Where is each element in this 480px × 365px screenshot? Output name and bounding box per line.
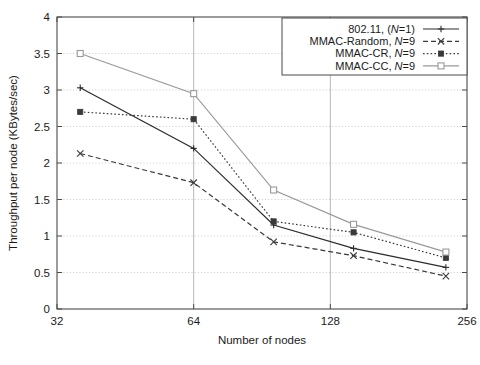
legend-entry-label: 802.11, (N=1) <box>348 23 415 35</box>
x-tick-label: 128 <box>321 315 340 327</box>
data-point-marker <box>351 230 356 235</box>
data-point-marker <box>191 117 196 122</box>
x-tick-label: 256 <box>457 315 476 327</box>
data-point-marker <box>271 187 277 193</box>
chart-legend: 802.11, (N=1)MMAC-Random, N=9MMAC-CR, N=… <box>282 18 467 75</box>
data-point-marker <box>271 219 276 224</box>
y-tick-label: 3.5 <box>34 48 50 60</box>
y-tick-label: 1 <box>44 230 50 242</box>
data-point-marker <box>443 255 448 260</box>
y-tick-label: 0.5 <box>34 267 50 279</box>
data-point-marker <box>77 51 83 57</box>
y-tick-label: 3 <box>44 84 50 96</box>
data-point-marker <box>78 109 83 114</box>
x-axis-title: Number of nodes <box>218 334 306 346</box>
x-tick-label: 32 <box>51 315 64 327</box>
y-axis-title: Throughput per node (KBytes/sec) <box>7 75 19 251</box>
y-tick-label: 2 <box>44 157 50 169</box>
y-tick-label: 1.5 <box>34 194 50 206</box>
y-tick-label: 4 <box>44 11 51 23</box>
chart-figure: 00.511.522.533.54 3264128256 Number of n… <box>0 0 480 365</box>
data-point-marker <box>351 221 357 227</box>
data-point-marker <box>438 63 444 69</box>
data-point-marker <box>191 91 197 97</box>
y-tick-label: 0 <box>44 303 50 315</box>
throughput-line-chart: 00.511.522.533.54 3264128256 Number of n… <box>0 0 480 365</box>
legend-entry-label: MMAC-CR, N=9 <box>335 47 415 59</box>
data-point-marker <box>443 249 449 255</box>
legend-entry-label: MMAC-Random, N=9 <box>310 35 415 47</box>
legend-entry-label: MMAC-CC, N=9 <box>335 60 415 72</box>
data-point-marker <box>438 51 443 56</box>
y-tick-label: 2.5 <box>34 121 50 133</box>
x-tick-label: 64 <box>187 315 200 327</box>
